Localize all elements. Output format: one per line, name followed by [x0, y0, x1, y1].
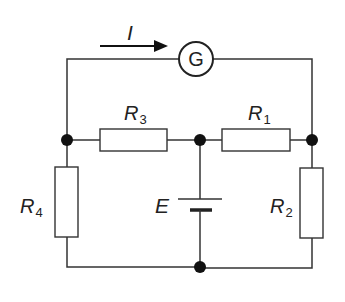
r3-label: R3: [124, 102, 147, 127]
galvanometer-branch: G: [67, 42, 312, 140]
battery-branch: E: [155, 140, 222, 267]
junction-bottom: [194, 261, 206, 273]
middle-branch: R3 R1: [67, 102, 312, 151]
left-branch: R4: [20, 140, 200, 267]
right-branch: R2: [200, 140, 323, 268]
junction-right: [306, 134, 318, 146]
resistor-r3: [100, 129, 167, 151]
resistor-r4: [55, 167, 78, 237]
galvanometer-label: G: [188, 48, 204, 70]
battery-label: E: [155, 194, 170, 217]
current-label: I: [127, 21, 133, 44]
r1-label: R1: [248, 102, 271, 127]
junction-middle: [194, 134, 206, 146]
resistor-r1: [222, 129, 290, 151]
circuit-diagram: G I R3 R1 R4 R2 E: [0, 0, 345, 302]
resistor-r2: [300, 168, 323, 238]
r2-label: R2: [270, 195, 293, 220]
r4-label: R4: [20, 195, 43, 220]
junction-left: [61, 134, 73, 146]
current-arrow: I: [100, 21, 168, 52]
